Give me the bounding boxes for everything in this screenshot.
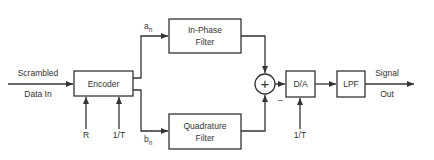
quadrature-filter-line1: Quadrature — [184, 121, 227, 131]
lower-branch-wire — [133, 90, 168, 131]
dac-label: D/A — [293, 79, 308, 89]
lower-branch-symbol: bn — [144, 134, 153, 146]
summer-plus-sign: + — [261, 75, 270, 92]
encoder-r-label: R — [83, 130, 89, 140]
output-label-line1: Signal — [375, 68, 399, 78]
in-phase-filter-line2: Filter — [196, 37, 215, 47]
quadrature-to-summer-wire — [241, 95, 265, 131]
upper-branch-wire — [133, 36, 168, 78]
in-phase-to-summer-wire — [241, 36, 265, 73]
dac-clock-label: 1/T — [294, 130, 306, 140]
in-phase-filter-line1: In-Phase — [188, 25, 222, 35]
modulator-block-diagram: Scrambled Data In Encoder R 1/T an In-Ph… — [0, 0, 434, 160]
encoder-label: Encoder — [88, 79, 120, 89]
quadrature-filter-line2: Filter — [196, 133, 215, 143]
summer-minus-sign: – — [278, 95, 283, 105]
lpf-label: LPF — [343, 79, 359, 89]
output-label-line2: Out — [380, 89, 394, 99]
quadrature-filter-block — [169, 114, 241, 149]
input-label-line2: Data In — [24, 89, 52, 99]
upper-branch-symbol: an — [144, 21, 153, 33]
input-label-line1: Scrambled — [18, 68, 59, 78]
encoder-clock-label: 1/T — [113, 130, 125, 140]
